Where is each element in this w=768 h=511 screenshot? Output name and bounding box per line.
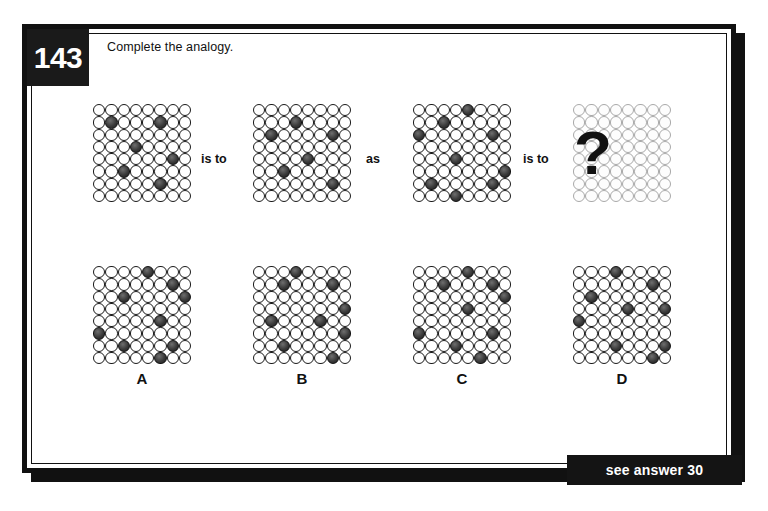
grid-cell-light [327,153,339,165]
grid-cell-light [339,340,351,352]
grid-cell-light [425,190,437,202]
grid-cell-light [314,178,326,190]
grid-cell-light [179,104,191,116]
grid-cell-dark [167,278,179,290]
grid-cell-light [573,266,585,278]
grid-cell-dark [118,291,130,303]
connector-as: as [366,152,380,166]
grid-cell-dark [278,165,290,177]
grid-cell-light [253,116,265,128]
grid-cell-light [314,116,326,128]
grid-cell-light [167,327,179,339]
grid-cell-light [179,340,191,352]
grid-cell-light [634,352,646,364]
answer-options-row: A B C D [46,266,706,384]
grid-cell-light [253,190,265,202]
grid-cell-light [179,303,191,315]
grid-cell-light [573,291,585,303]
option-c-grid[interactable] [413,266,511,364]
grid-cell-light [130,315,142,327]
grid-cell-light [290,178,302,190]
grid-cell-light [130,129,142,141]
grid-cell-light [462,153,474,165]
grid-cell-light [314,352,326,364]
grid-cell-light [118,178,130,190]
grid-cell-light [278,266,290,278]
grid-cell-light [450,266,462,278]
grid-cell-light [474,291,486,303]
grid-cell-light [130,327,142,339]
grid-cell-light [425,116,437,128]
grid-cell-light [659,352,671,364]
grid-cell-dark [327,178,339,190]
grid-cell-light [634,116,646,128]
puzzle-page: 143 Complete the analogy. is to as is to… [0,0,768,511]
grid-cell-light [302,141,314,153]
grid-term-a [93,104,191,202]
grid-cell-light [647,340,659,352]
grid-cell-light [622,291,634,303]
grid-cell-dark [462,266,474,278]
grid-cell-light [253,153,265,165]
grid-cell-light [462,165,474,177]
grid-cell-light [93,178,105,190]
grid-cell-light [450,352,462,364]
grid-cell-light [499,116,511,128]
grid-cell-light [142,190,154,202]
connector-is-to-2: is to [523,152,549,166]
grid-cell-light [290,141,302,153]
grid-cell-dark [339,327,351,339]
grid-cell-light [622,153,634,165]
grid-cell-light [499,153,511,165]
grid-cell-light [622,178,634,190]
grid-cell-light [302,278,314,290]
grid-cell-light [265,327,277,339]
option-a-grid[interactable] [93,266,191,364]
see-answer-banner[interactable]: see answer 30 [567,455,742,485]
grid-cell-light [253,278,265,290]
grid-cell-light [425,291,437,303]
grid-cell-light [474,141,486,153]
grid-cell-light [585,303,597,315]
grid-cell-light [610,190,622,202]
grid-cell-light [290,104,302,116]
grid-cell-light [314,104,326,116]
grid-cell-light [487,352,499,364]
grid-cell-light [302,340,314,352]
option-b-grid[interactable] [253,266,351,364]
grid-cell-light [93,340,105,352]
grid-cell-light [154,190,166,202]
option-d-grid[interactable] [573,266,671,364]
grid-cell-light [462,190,474,202]
grid-cell-light [105,129,117,141]
grid-cell-light [314,129,326,141]
grid-cell-light [302,116,314,128]
grid-cell-light [179,278,191,290]
grid-cell-light [290,315,302,327]
grid-cell-light [450,315,462,327]
grid-cell-light [130,190,142,202]
grid-cell-light [130,278,142,290]
grid-cell-light [93,190,105,202]
grid-cell-light [425,165,437,177]
grid-cell-light [290,129,302,141]
grid-cell-light [499,141,511,153]
grid-cell-light [474,178,486,190]
grid-cell-light [413,190,425,202]
grid-cell-light [598,315,610,327]
grid-cell-light [253,315,265,327]
grid-cell-light [142,278,154,290]
grid-cell-dark [499,165,511,177]
grid-cell-light [339,153,351,165]
grid-cell-light [474,153,486,165]
grid-cell-dark [610,340,622,352]
grid-cell-light [438,315,450,327]
grid-cell-dark [154,178,166,190]
grid-cell-light [179,153,191,165]
grid-cell-light [130,153,142,165]
grid-cell-light [598,352,610,364]
grid-cell-light [413,315,425,327]
grid-cell-light [438,352,450,364]
grid-cell-light [154,129,166,141]
grid-cell-light [302,129,314,141]
